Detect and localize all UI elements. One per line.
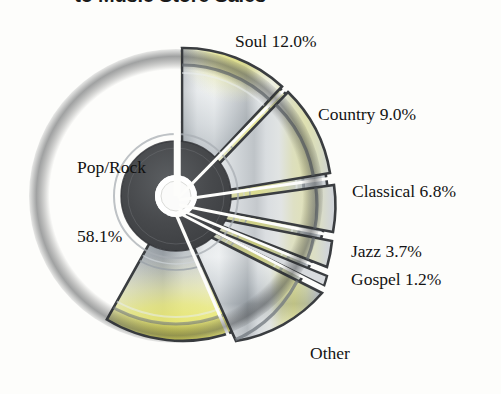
label-pop-rock-value: 58.1% bbox=[77, 225, 146, 248]
label-pop-rock-name: Pop/Rock bbox=[77, 156, 146, 179]
label-gospel: Gospel 1.2% bbox=[351, 268, 441, 290]
label-jazz: Jazz 3.7% bbox=[351, 240, 422, 262]
chart-container: to Music Store Sales bbox=[0, 0, 501, 394]
label-soul: Soul 12.0% bbox=[235, 30, 317, 52]
label-other-line1: Other bbox=[310, 342, 444, 364]
label-pop-rock: Pop/Rock 58.1% bbox=[77, 110, 146, 294]
label-other: Other (children's, comedy, etc.) 9.2% bbox=[310, 298, 444, 394]
label-classical: Classical 6.8% bbox=[352, 180, 456, 202]
disc-rim-shade bbox=[29, 49, 323, 343]
label-country: Country 9.0% bbox=[318, 103, 416, 125]
